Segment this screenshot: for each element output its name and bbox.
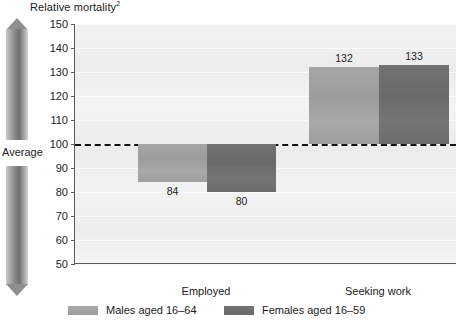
chart-axis-title: Relative mortality2 [30, 0, 120, 13]
y-axis-tick-label: 90 [56, 162, 68, 174]
y-axis-tick [71, 240, 75, 241]
higher-than-average-label: Higher than average [6, 76, 28, 87]
y-axis-tick-label: 50 [56, 258, 68, 270]
y-axis-tick-label: 110 [50, 114, 68, 126]
gridline [75, 24, 456, 25]
bar-value-employed-females: 80 [236, 195, 248, 207]
bar-value-seeking-work-females: 133 [405, 50, 423, 62]
legend-swatch-females-icon [224, 306, 254, 315]
plot-area: 1501401301201101009080706050 84 80 132 1… [74, 24, 456, 264]
axis-title-superscript: 2 [116, 0, 120, 7]
y-axis-tick [71, 120, 75, 121]
bar-employed-females [207, 144, 276, 192]
y-axis-tick [71, 48, 75, 49]
y-axis-tick-label: 80 [56, 186, 68, 198]
bar-seeking-work-males [309, 67, 379, 144]
average-baseline-label: Average [2, 146, 43, 158]
bar-seeking-work-females [379, 65, 449, 144]
legend-label-females: Females aged 16–59 [262, 303, 365, 318]
bar-employed-males [138, 144, 207, 182]
gridline [75, 192, 456, 193]
y-axis-tick-label: 60 [56, 234, 68, 246]
y-axis-tick-label: 150 [50, 18, 68, 30]
y-axis-tick [71, 264, 75, 265]
lower-than-average-arrow-icon: Lower than average [6, 166, 28, 296]
y-axis-tick-label: 140 [50, 42, 68, 54]
y-axis-tick-label: 70 [56, 210, 68, 222]
relative-mortality-chart: Relative mortality2 Higher than average … [0, 0, 471, 323]
gridline [75, 264, 456, 265]
bar-value-seeking-work-males: 132 [335, 52, 353, 64]
gridline [75, 48, 456, 49]
y-axis-tick-label: 100 [50, 138, 68, 150]
y-axis-tick [71, 216, 75, 217]
y-axis-tick-label: 120 [50, 90, 68, 102]
y-axis-tick-label: 130 [50, 66, 68, 78]
gridline [75, 240, 456, 241]
y-axis-tick [71, 192, 75, 193]
bar-value-employed-males: 84 [167, 185, 179, 197]
axis-title-text: Relative mortality [30, 1, 116, 13]
category-label-seeking-work: Seeking work [345, 285, 411, 297]
category-label-employed: Employed [182, 285, 231, 297]
chart-legend: Males aged 16–64 Females aged 16–59 [0, 303, 471, 319]
gridline [75, 216, 456, 217]
higher-than-average-arrow-icon: Higher than average [6, 18, 28, 140]
y-axis-tick [71, 72, 75, 73]
legend-swatch-males-icon [68, 306, 98, 315]
y-axis-tick [71, 96, 75, 97]
legend-label-males: Males aged 16–64 [106, 303, 197, 318]
y-axis-tick [71, 24, 75, 25]
arrow-down-head-icon [6, 284, 28, 296]
y-axis-tick [71, 168, 75, 169]
lower-than-average-label: Lower than average [6, 222, 28, 233]
